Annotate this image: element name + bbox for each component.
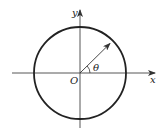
- y-axis-label: y: [71, 7, 78, 18]
- unit-circle-diagram: y x O θ: [0, 0, 163, 139]
- angle-arc: [87, 66, 90, 73]
- angle-label: θ: [93, 62, 99, 73]
- origin-label: O: [70, 75, 78, 86]
- x-axis-label: x: [150, 74, 156, 85]
